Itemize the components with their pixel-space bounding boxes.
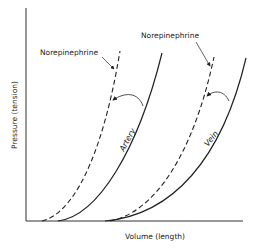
vein-norepinephrine-label: Norepinephrine	[141, 31, 199, 40]
artery-curve-label: Artery	[117, 127, 137, 154]
artery-norepinephrine-curve	[42, 51, 120, 221]
artery-norepinephrine-label: Norepinephrine	[40, 48, 98, 57]
vein-shift-arrow	[207, 92, 229, 101]
artery-shift-arrow	[113, 95, 143, 106]
vein-curve-label: Vein	[202, 129, 220, 148]
artery-label-pointer	[102, 57, 114, 69]
y-axis-label: Pressure (tension)	[10, 81, 19, 149]
vein-label-pointer	[196, 42, 210, 66]
x-axis-label: Volume (length)	[125, 232, 185, 241]
pressure-volume-diagram: Norepinephrine Norepinephrine Artery Vei…	[0, 0, 254, 251]
